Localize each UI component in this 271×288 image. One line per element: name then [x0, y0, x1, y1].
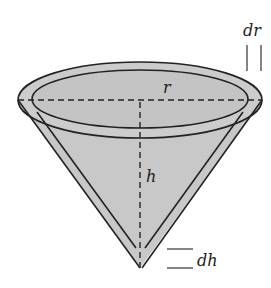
label-dr: dr — [243, 21, 262, 40]
inner-rim — [32, 70, 248, 128]
label-r: r — [163, 78, 172, 97]
cone-diagram: r h dr dh — [0, 0, 271, 288]
label-dh: dh — [197, 251, 218, 270]
label-h: h — [146, 167, 156, 186]
